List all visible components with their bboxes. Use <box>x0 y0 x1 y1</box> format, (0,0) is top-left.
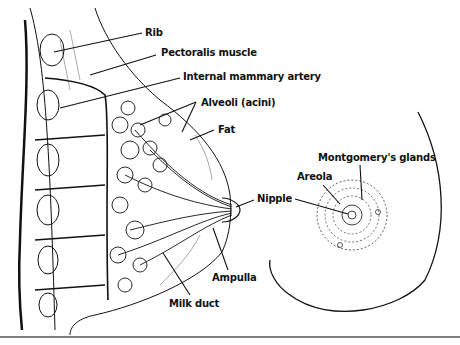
label-milk-duct: Milk duct <box>169 298 219 309</box>
label-rib: Rib <box>145 27 163 38</box>
label-fat: Fat <box>218 124 235 135</box>
label-pectoralis-muscle: Pectoralis muscle <box>161 47 257 58</box>
label-internal-mammary-artery: Internal mammary artery <box>183 71 321 82</box>
label-nipple: Nipple <box>257 193 292 204</box>
label-ampulla: Ampulla <box>212 272 257 283</box>
breast-anatomy-diagram: Rib Pectoralis muscle Internal mammary a… <box>0 0 460 345</box>
label-montgomerys-glands: Montgomery's glands <box>318 152 436 163</box>
label-alveoli: Alveoli (acini) <box>201 97 275 108</box>
label-areola: Areola <box>297 171 332 182</box>
anterior-view <box>270 112 442 311</box>
